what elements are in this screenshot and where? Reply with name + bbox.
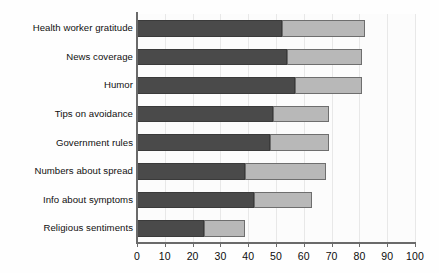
x-tick-mark (248, 243, 249, 247)
x-tick-label: 10 (159, 250, 171, 262)
x-tick-label: 100 (406, 250, 424, 262)
x-tick-label: 90 (381, 250, 393, 262)
x-tick-label: 0 (134, 250, 140, 262)
category-label: Religious sentiments (1, 222, 133, 233)
bar-row (137, 49, 415, 66)
bar-segment (282, 20, 365, 37)
bar-segment (137, 163, 245, 180)
bar-segment (137, 134, 270, 151)
bar-row (137, 20, 415, 37)
category-label: Tips on avoidance (1, 108, 133, 119)
x-tick-mark (415, 243, 416, 247)
bar-segment (295, 77, 362, 94)
bar-row (137, 192, 415, 209)
bar-segment (245, 163, 326, 180)
bar-segment (287, 49, 362, 66)
bar-row (137, 106, 415, 123)
bar-chart: 0102030405060708090100 Health worker gra… (0, 0, 439, 273)
category-label: Numbers about spread (1, 165, 133, 176)
bar-row (137, 77, 415, 94)
x-tick-mark (276, 243, 277, 247)
category-label: Health worker gratitude (1, 22, 133, 33)
x-tick-label: 20 (187, 250, 199, 262)
bar-row (137, 220, 415, 237)
bar-segment (273, 106, 329, 123)
x-tick-label: 40 (242, 250, 254, 262)
x-tick-mark (165, 243, 166, 247)
category-labels: Health worker gratitudeNews coverageHumo… (0, 0, 133, 273)
bar-row (137, 134, 415, 151)
y-axis-line (136, 12, 138, 244)
bar-segment (137, 20, 282, 37)
x-tick-mark (359, 243, 360, 247)
bar-row (137, 163, 415, 180)
x-tick-mark (137, 243, 138, 247)
bar-segment (137, 77, 295, 94)
x-tick-label: 70 (326, 250, 338, 262)
plot-area (137, 14, 415, 242)
x-tick-label: 30 (214, 250, 226, 262)
category-label: News coverage (1, 51, 133, 62)
bar-segment (137, 220, 204, 237)
x-tick-mark (220, 243, 221, 247)
bar-segment (137, 49, 287, 66)
category-label: Government rules (1, 137, 133, 148)
x-tick-mark (193, 243, 194, 247)
bar-segment (137, 106, 273, 123)
x-tick-label: 50 (270, 250, 282, 262)
bar-segment (254, 192, 312, 209)
x-tick-mark (332, 243, 333, 247)
gridline (415, 14, 416, 242)
x-tick-label: 60 (298, 250, 310, 262)
category-label: Info about symptoms (1, 194, 133, 205)
x-tick-mark (304, 243, 305, 247)
bar-segment (137, 192, 254, 209)
bar-segment (204, 220, 246, 237)
x-tick-label: 80 (353, 250, 365, 262)
x-tick-mark (387, 243, 388, 247)
category-label: Humor (1, 79, 133, 90)
bar-segment (270, 134, 328, 151)
